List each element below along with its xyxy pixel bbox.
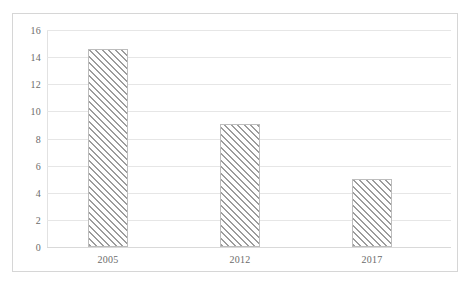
plot-area xyxy=(47,30,451,247)
gridline-0-baseline xyxy=(47,247,451,248)
y-axis-tick-labels: 16 14 12 10 8 6 4 2 0 xyxy=(0,0,41,286)
y-tick-label-16: 16 xyxy=(31,25,41,36)
y-tick-label-2: 2 xyxy=(36,214,41,225)
bar-2005 xyxy=(88,49,128,247)
gridline-16 xyxy=(47,30,451,31)
y-tick-label-12: 12 xyxy=(31,79,41,90)
x-tick-label-2012: 2012 xyxy=(230,254,251,265)
bar-chart: 16 14 12 10 8 6 4 2 0 2005 2012 2017 xyxy=(0,0,470,286)
y-tick-label-0: 0 xyxy=(36,242,41,253)
y-tick-label-10: 10 xyxy=(31,106,41,117)
y-tick-label-6: 6 xyxy=(36,160,41,171)
bar-2017 xyxy=(352,179,392,247)
x-tick-label-2005: 2005 xyxy=(98,254,119,265)
y-tick-label-4: 4 xyxy=(36,187,41,198)
y-tick-label-14: 14 xyxy=(31,52,41,63)
x-tick-label-2017: 2017 xyxy=(362,254,383,265)
bar-2012 xyxy=(220,124,260,247)
y-tick-label-8: 8 xyxy=(36,133,41,144)
